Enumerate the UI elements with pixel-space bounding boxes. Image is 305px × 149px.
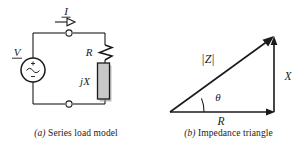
voltage-label: V [14,46,22,58]
panel-impedance-triangle: |Z| θ R X (b) Impedance triangle [152,0,305,149]
vertical-label: X [283,70,292,82]
series-load-circuit-svg: I V R jX [0,0,152,128]
terminal-bottom-icon [66,101,72,107]
reactance-label: jX [78,75,91,87]
vertical-vector [271,36,278,112]
base-label: R [216,115,224,127]
caption-b-tag: (b) [184,128,198,138]
figure-container: I V R jX (a) Series load model [0,0,305,149]
resistance-label: R [85,46,93,58]
impedance-triangle-svg: |Z| θ R X [152,0,305,128]
terminal-top-icon [66,30,72,36]
hypotenuse-vector [170,36,274,112]
caption-panel-a: (a) Series load model [0,128,152,138]
panel-series-load-model: I V R jX (a) Series load model [0,0,152,149]
caption-a-tag: (a) [34,128,48,138]
angle-arc-icon [202,98,205,112]
resistor-zigzag-icon [100,45,113,60]
current-label: I [63,5,69,17]
reactance-box [98,63,110,99]
angle-label: θ [215,91,221,103]
caption-a-text: Series load model [48,128,118,138]
current-arrow-icon [55,18,75,26]
hypotenuse-label: |Z| [201,52,214,66]
caption-b-text: Impedance triangle [198,128,273,138]
caption-panel-b: (b) Impedance triangle [152,128,305,138]
